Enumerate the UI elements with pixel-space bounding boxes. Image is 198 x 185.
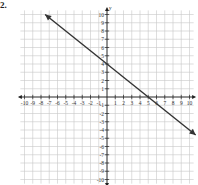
svg-text:5: 5: [147, 100, 150, 106]
svg-text:4: 4: [139, 100, 142, 106]
svg-text:-5: -5: [99, 135, 104, 141]
svg-text:1: 1: [114, 100, 117, 106]
svg-text:-1: -1: [99, 102, 104, 108]
svg-text:-6: -6: [99, 144, 104, 150]
svg-text:2: 2: [101, 78, 104, 84]
svg-text:3: 3: [101, 69, 104, 75]
axes: [18, 7, 196, 185]
svg-text:6: 6: [101, 45, 104, 51]
svg-text:-9: -9: [30, 100, 35, 106]
svg-text:5: 5: [101, 53, 104, 59]
svg-text:-4: -4: [72, 100, 77, 106]
svg-text:8: 8: [172, 100, 175, 106]
svg-text:-4: -4: [99, 127, 104, 133]
svg-text:1: 1: [101, 86, 104, 92]
svg-text:7: 7: [101, 36, 104, 42]
svg-text:-8: -8: [39, 100, 44, 106]
svg-text:9: 9: [180, 100, 183, 106]
svg-text:-7: -7: [47, 100, 52, 106]
svg-text:10: 10: [187, 100, 193, 106]
svg-text:-3: -3: [80, 100, 85, 106]
svg-text:2: 2: [122, 100, 125, 106]
svg-text:y: y: [108, 5, 112, 11]
svg-text:-6: -6: [55, 100, 60, 106]
svg-text:-9: -9: [99, 168, 104, 174]
svg-text:3: 3: [130, 100, 133, 106]
svg-text:10: 10: [99, 12, 105, 18]
coordinate-plane: y-10-9-8-7-6-5-4-3-2-1123456789101098765…: [0, 0, 198, 185]
svg-text:-2: -2: [88, 100, 93, 106]
svg-text:-3: -3: [99, 119, 104, 125]
svg-text:-8: -8: [99, 160, 104, 166]
svg-text:7: 7: [163, 100, 166, 106]
svg-text:-7: -7: [99, 152, 104, 158]
svg-text:-10: -10: [21, 100, 29, 106]
svg-text:8: 8: [101, 28, 104, 34]
svg-text:-2: -2: [99, 111, 104, 117]
svg-text:9: 9: [101, 20, 104, 26]
svg-text:-10: -10: [97, 177, 105, 183]
svg-text:-5: -5: [63, 100, 68, 106]
